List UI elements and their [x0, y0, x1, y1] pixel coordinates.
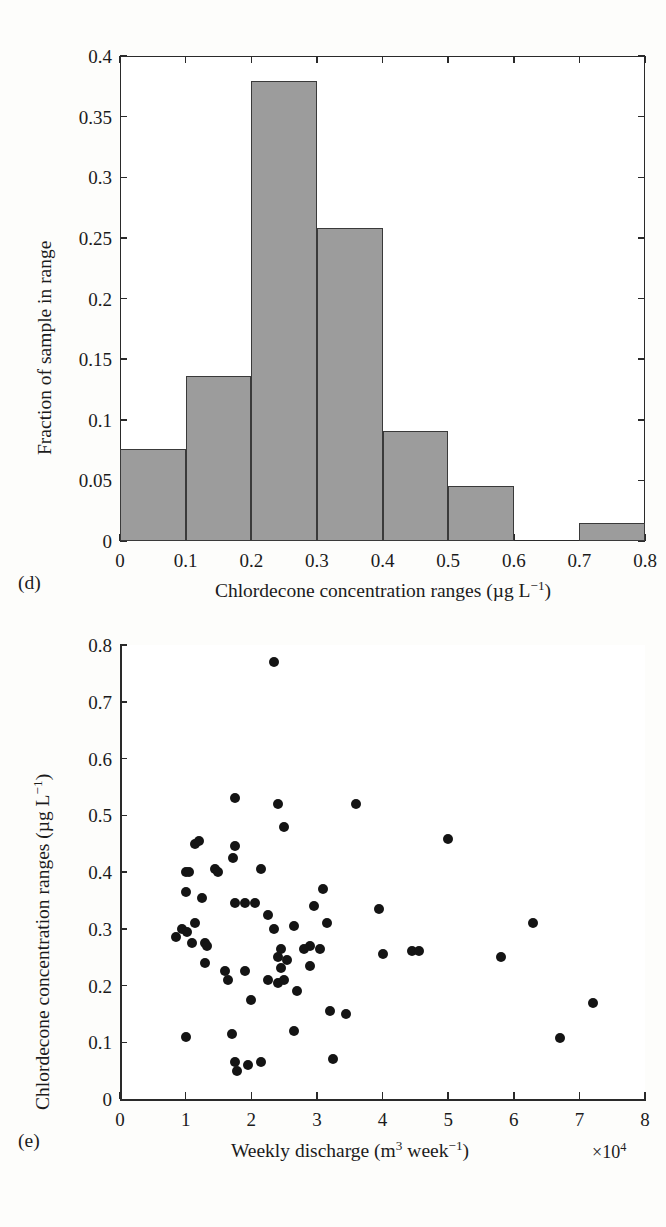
- hist-y-tick: [120, 298, 127, 300]
- scatter-x-tick-label: 6: [509, 1110, 519, 1129]
- scatter-x-tick-label: 5: [443, 1110, 453, 1129]
- scatter-point: [230, 841, 240, 851]
- scatter-point: [190, 918, 200, 928]
- scatter-point: [187, 938, 197, 948]
- scatter-point: [240, 966, 250, 976]
- scatter-point: [243, 1060, 253, 1070]
- hist-x-tick-label: 0.6: [502, 551, 526, 570]
- hist-bar: [383, 431, 449, 541]
- hist-y-tick: [120, 358, 127, 360]
- scatter-x-tick-label: 3: [312, 1110, 322, 1129]
- scatter-y-tick-label: 0.6: [68, 749, 112, 768]
- scatter-point: [289, 1026, 299, 1036]
- scatter-y-tick-label: 0.7: [68, 692, 112, 711]
- scatter-x-tick-label: 0: [115, 1110, 125, 1129]
- scatter-x-tick: [579, 1092, 581, 1099]
- hist-x-tick-label: 0.5: [436, 551, 460, 570]
- scatter-point: [279, 822, 289, 832]
- hist-x-axis-title-text: Chlordecone concentration ranges (µg L: [215, 580, 531, 601]
- hist-y-tick-right: [638, 177, 645, 179]
- hist-y-tick-label: 0.3: [68, 168, 112, 187]
- hist-y-tick-right: [638, 419, 645, 421]
- scatter-point: [269, 924, 279, 934]
- hist-x-tick-top: [447, 56, 449, 63]
- scatter-point: [378, 949, 388, 959]
- scatter-point: [240, 898, 250, 908]
- panel-e-scatter: Chlordecone concentration ranges (µg L−1…: [0, 610, 666, 1227]
- hist-y-tick: [120, 55, 127, 57]
- hist-y-tick-label: 0.4: [68, 47, 112, 66]
- scatter-x-tick-label: 8: [640, 1110, 650, 1129]
- scatter-point: [184, 867, 194, 877]
- scatter-point: [299, 944, 309, 954]
- scatter-x-tick: [251, 1092, 253, 1099]
- scatter-point: [181, 887, 191, 897]
- hist-bar: [120, 449, 186, 541]
- scatter-y-axis-title-sup: −1: [30, 780, 45, 794]
- hist-y-tick-label: 0.35: [68, 107, 112, 126]
- hist-y-tick-label: 0.1: [68, 410, 112, 429]
- scatter-x-axis-title-sup2: −1: [448, 1138, 462, 1153]
- panel-label-d: (d): [18, 572, 41, 594]
- scatter-point: [279, 975, 289, 985]
- hist-bar: [317, 228, 383, 541]
- hist-y-tick-label: 0: [68, 532, 112, 551]
- scatter-y-tick: [120, 871, 127, 873]
- scatter-point: [318, 884, 328, 894]
- hist-bar: [448, 486, 514, 541]
- hist-bar: [579, 523, 645, 541]
- scatter-point: [213, 867, 223, 877]
- figure-panels-d-e: Fraction of sample in range 00.10.20.30.…: [0, 0, 666, 1227]
- hist-x-axis-title: Chlordecone concentration ranges (µg L−1…: [215, 580, 551, 602]
- scatter-point: [305, 961, 315, 971]
- scatter-point: [374, 904, 384, 914]
- hist-bar: [251, 81, 317, 541]
- scatter-y-tick-label: 0.5: [68, 806, 112, 825]
- scatter-x-tick: [644, 1092, 646, 1099]
- scatter-point: [276, 963, 286, 973]
- scatter-point: [309, 901, 319, 911]
- scatter-x-axis-multiplier: ×104: [592, 1142, 626, 1163]
- hist-x-tick-label: 0: [115, 551, 125, 570]
- hist-x-tick-top: [119, 56, 121, 63]
- scatter-point: [200, 958, 210, 968]
- scatter-y-axis-title: Chlordecone concentration ranges (µg L−1…: [32, 774, 54, 1110]
- hist-x-tick-label: 0.7: [568, 551, 592, 570]
- scatter-y-tick: [120, 1042, 127, 1044]
- scatter-point: [182, 927, 192, 937]
- hist-x-tick-label: 0.2: [239, 551, 263, 570]
- scatter-point: [351, 799, 361, 809]
- scatter-point: [223, 975, 233, 985]
- scatter-point: [256, 1057, 266, 1067]
- hist-y-tick: [120, 419, 127, 421]
- scatter-point: [588, 998, 598, 1008]
- multiplier-text: ×10: [592, 1142, 620, 1162]
- hist-y-tick-right: [638, 116, 645, 118]
- scatter-y-tick-label: 0.8: [68, 636, 112, 655]
- scatter-x-tick: [119, 1092, 121, 1099]
- scatter-point: [230, 793, 240, 803]
- scatter-y-tick: [120, 815, 127, 817]
- scatter-point: [227, 1029, 237, 1039]
- scatter-x-axis-title-mid: week: [402, 1140, 448, 1161]
- scatter-x-tick-label: 4: [378, 1110, 388, 1129]
- scatter-x-tick: [382, 1092, 384, 1099]
- hist-y-tick-right: [638, 358, 645, 360]
- scatter-plot-area: [120, 645, 645, 1100]
- scatter-y-tick: [120, 701, 127, 703]
- scatter-point: [269, 657, 279, 667]
- scatter-point: [528, 918, 538, 928]
- scatter-point: [197, 893, 207, 903]
- scatter-x-tick: [185, 1092, 187, 1099]
- scatter-point: [282, 955, 292, 965]
- scatter-point: [555, 1033, 565, 1043]
- scatter-x-axis-title: Weekly discharge (m3 week−1): [231, 1140, 469, 1162]
- scatter-x-axis-title-tail: ): [463, 1140, 470, 1161]
- scatter-point: [414, 946, 424, 956]
- hist-x-axis-title-sup: −1: [530, 578, 544, 593]
- scatter-point: [250, 898, 260, 908]
- hist-x-tick-top: [316, 56, 318, 63]
- scatter-y-axis-title-tail: ): [32, 774, 53, 781]
- scatter-point: [202, 941, 212, 951]
- hist-x-tick-label: 0.4: [371, 551, 395, 570]
